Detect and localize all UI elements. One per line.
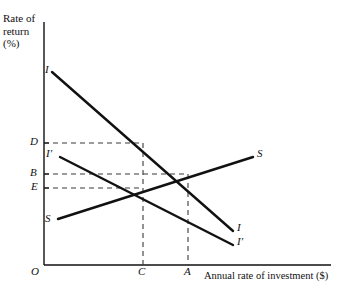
- x-axis-title: Annual rate of investment ($): [204, 270, 328, 283]
- investment-saving-chart-figure: Rate of return (%) Annual rate of invest…: [0, 0, 351, 290]
- curve-label-s-right: S: [257, 147, 263, 159]
- origin-label: O: [31, 265, 39, 277]
- curve-label-i-right: I: [237, 221, 241, 233]
- y-tick-label-e: E: [31, 180, 38, 192]
- y-tick-label-d: D: [30, 135, 38, 147]
- curve-label-s-left: S: [45, 212, 51, 224]
- curve-s: [58, 157, 253, 219]
- curve-i-prime: [60, 157, 233, 245]
- y-axis-title: Rate of return (%): [3, 12, 35, 50]
- y-tick-label-b: B: [30, 166, 37, 178]
- curve-label-i-left: I: [45, 63, 49, 75]
- chart-canvas: [0, 0, 351, 290]
- curve-label-i-prime-right: I': [237, 235, 243, 247]
- curve-label-i-prime-left: I': [46, 147, 52, 159]
- x-tick-label-a: A: [184, 265, 191, 277]
- x-tick-label-c: C: [138, 265, 145, 277]
